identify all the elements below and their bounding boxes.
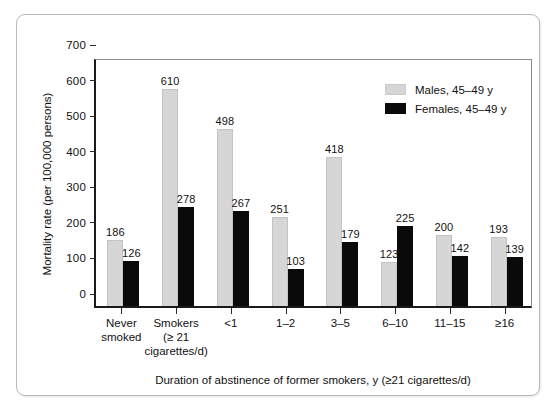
bar-value-label: 200 (435, 221, 454, 233)
bar-female[interactable]: 179 (342, 242, 358, 306)
bar-rect (233, 211, 249, 306)
bar-value-label: 139 (505, 243, 524, 255)
y-axis-tick-label: 200 (58, 217, 86, 229)
bar-value-label: 103 (286, 255, 305, 267)
bar-rect (288, 269, 304, 306)
bar-rect (507, 257, 523, 306)
bar-male[interactable]: 193 (491, 237, 507, 306)
bar-value-label: 251 (270, 203, 289, 215)
x-axis-tick-label: 6–10 (382, 316, 408, 330)
y-axis-tick-label: 100 (58, 252, 86, 264)
x-axis-title: Duration of abstinence of former smokers… (94, 374, 532, 386)
x-axis-tick-mark (176, 308, 177, 314)
y-axis-tick: 700 (58, 39, 96, 51)
bar-rect (217, 129, 233, 306)
bar-female[interactable]: 139 (507, 257, 523, 306)
x-axis-tick-label: Neversmoked (101, 316, 141, 344)
bar-female[interactable]: 126 (123, 261, 139, 306)
legend-item[interactable]: Females, 45–49 y (385, 100, 506, 117)
bar-rect (436, 235, 452, 306)
x-axis-tick-label: Smokers(≥ 21cigarettes/d) (144, 316, 207, 358)
x-axis-tick-label: 1–2 (276, 316, 295, 330)
x-axis-tick-label-line: Never (106, 317, 137, 329)
x-axis-tick-mark (395, 308, 396, 314)
bar-value-label: 267 (232, 197, 251, 209)
bar-male[interactable]: 123 (381, 262, 397, 306)
x-axis-tick-mark (286, 308, 287, 314)
x-axis-ticks (94, 308, 532, 314)
bar-value-label: 418 (325, 143, 344, 155)
bar-rect (178, 207, 194, 306)
bar-female[interactable]: 103 (288, 269, 304, 306)
x-axis-tick-label-line: 1–2 (276, 317, 295, 329)
x-axis-tick-mark (231, 308, 232, 314)
bar-group: 498267 (217, 129, 249, 306)
y-axis-tick: 500 (58, 110, 96, 122)
bar-male[interactable]: 418 (326, 157, 342, 306)
x-axis-tick-label: <1 (224, 316, 237, 330)
bar-rect (452, 256, 468, 307)
legend-item[interactable]: Males, 45–49 y (385, 81, 506, 98)
bar-rect (342, 242, 358, 306)
y-axis-title-text: Mortality rate (per 100,000 persons) (41, 92, 53, 275)
bar-value-label: 193 (489, 223, 508, 235)
bar-group: 251103 (272, 217, 304, 306)
bar-rect (162, 89, 178, 306)
bar-group: 418179 (326, 157, 358, 306)
bar-male[interactable]: 200 (436, 235, 452, 306)
bar-rect (381, 262, 397, 306)
x-axis-tick-label: ≥16 (495, 316, 514, 330)
y-axis-tick: 600 (58, 75, 96, 87)
legend-swatch-male (385, 84, 406, 95)
y-axis-tick-label: 700 (58, 39, 86, 51)
x-axis-tick-mark (450, 308, 451, 314)
bar-male[interactable]: 251 (272, 217, 288, 306)
legend-label: Males, 45–49 y (415, 84, 493, 96)
x-axis-tick-mark (340, 308, 341, 314)
x-axis-labels: NeversmokedSmokers(≥ 21cigarettes/d)<11–… (94, 316, 532, 374)
x-axis-tick-label-line: cigarettes/d) (144, 344, 207, 358)
y-axis-tick: 400 (58, 146, 96, 158)
x-axis-tick-label-line: (≥ 21 (144, 330, 207, 344)
bar-value-label: 186 (106, 226, 125, 238)
y-axis-tick: 200 (58, 217, 96, 229)
y-axis-tick-label: 400 (58, 146, 86, 158)
bar-rect (491, 237, 507, 306)
bar-value-label: 498 (216, 115, 235, 127)
bar-male[interactable]: 610 (162, 89, 178, 306)
bar-group: 193139 (491, 237, 523, 306)
bar-value-label: 610 (161, 75, 180, 87)
bar-female[interactable]: 142 (452, 256, 468, 307)
x-axis-tick-label: 11–15 (434, 316, 465, 330)
figure-frame: Mortality rate (per 100,000 persons) 010… (16, 14, 540, 396)
y-axis-title: Mortality rate (per 100,000 persons) (39, 59, 55, 308)
bar-group: 123225 (381, 226, 413, 306)
bar-female[interactable]: 267 (233, 211, 249, 306)
x-axis-tick-label-line: Smokers (153, 317, 198, 329)
chart-legend: Males, 45–49 yFemales, 45–49 y (385, 81, 506, 119)
legend-label: Females, 45–49 y (415, 103, 506, 115)
bar-female[interactable]: 278 (178, 207, 194, 306)
y-axis-tick: 300 (58, 181, 96, 193)
bar-value-label: 278 (177, 193, 196, 205)
x-axis-tick-mark (505, 308, 506, 314)
bar-female[interactable]: 225 (397, 226, 413, 306)
bar-group: 610278 (162, 89, 194, 306)
x-axis-tick-label-line: <1 (224, 317, 237, 329)
bar-rect (397, 226, 413, 306)
y-axis-tick-label: 0 (58, 288, 86, 300)
bar-value-label: 123 (380, 248, 399, 260)
y-axis-tick-label: 500 (58, 110, 86, 122)
bar-rect (326, 157, 342, 306)
bar-male[interactable]: 186 (107, 240, 123, 306)
x-axis-tick-label-line: 11–15 (434, 317, 465, 329)
bar-value-label: 142 (451, 242, 470, 254)
y-axis-tick-mark (90, 45, 96, 46)
bar-rect (123, 261, 139, 306)
legend-swatch-female (385, 103, 406, 114)
x-axis-tick-label-line: ≥16 (495, 317, 514, 329)
y-axis-tick: 100 (58, 252, 96, 264)
bar-group: 186126 (107, 240, 139, 306)
bar-rect (272, 217, 288, 306)
bar-male[interactable]: 498 (217, 129, 233, 306)
